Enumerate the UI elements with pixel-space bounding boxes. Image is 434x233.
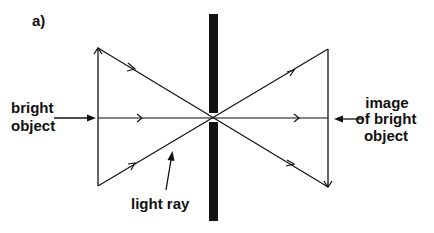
svg-text:light ray: light ray: [131, 195, 190, 212]
barrier-upper: [209, 14, 218, 113]
object-arrow: [94, 48, 102, 186]
image-label: image of bright object: [334, 94, 416, 144]
svg-text:object: object: [11, 117, 55, 134]
svg-text:image: image: [365, 94, 408, 111]
arrowhead-icon: [87, 115, 96, 122]
svg-text:object: object: [364, 127, 408, 144]
pointer-arrow: [166, 151, 175, 190]
ray-label: light ray: [131, 151, 190, 212]
pointer-arrow: [54, 115, 96, 122]
object-label: bright object: [11, 99, 96, 134]
svg-text:of bright: of bright: [356, 110, 417, 127]
panel-label: a): [32, 12, 45, 29]
svg-text:bright: bright: [11, 99, 54, 116]
chevron-icon: [127, 63, 135, 71]
barrier-lower: [209, 122, 218, 221]
pinhole-camera-diagram: a) bright object: [0, 0, 434, 233]
arrowhead-icon: [334, 116, 343, 123]
arrowhead-icon: [168, 151, 175, 161]
